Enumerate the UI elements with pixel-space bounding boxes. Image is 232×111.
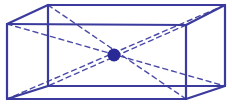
connect-top-right-edge bbox=[186, 5, 225, 25]
center-point bbox=[108, 49, 121, 62]
front-top-edge bbox=[7, 24, 186, 25]
connect-bottom-left-edge bbox=[7, 86, 48, 99]
connect-bottom-right-edge bbox=[186, 86, 225, 99]
prism-figure bbox=[0, 0, 232, 111]
center-point-group bbox=[108, 49, 121, 62]
connect-top-left-edge bbox=[7, 5, 48, 24]
prism-diagram-svg bbox=[0, 0, 232, 111]
